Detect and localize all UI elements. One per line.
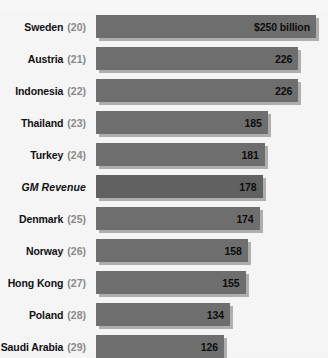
row-label: Austria(21) [0, 47, 88, 70]
chart-row: Norway(26)158 [0, 239, 328, 262]
row-label-rank: (24) [67, 149, 86, 161]
row-label: Thailand(23) [0, 111, 88, 134]
bar: 178 [96, 175, 263, 198]
row-label-rank: (22) [67, 85, 86, 97]
chart-row: Saudi Arabia(29)126 [0, 335, 328, 358]
chart-row: GM Revenue178 [0, 175, 328, 198]
row-label-rank: (29) [67, 341, 86, 353]
bar-value-label: 226 [275, 85, 292, 97]
bar: 155 [96, 271, 246, 294]
row-label-name: Thailand [21, 117, 63, 129]
row-label-rank: (23) [67, 117, 86, 129]
row-label: Turkey(24) [0, 143, 88, 166]
row-label-name: Turkey [30, 149, 63, 161]
bar: 226 [96, 47, 298, 70]
row-label: Sweden(20) [0, 15, 88, 38]
chart-row: Sweden(20)$250 billion [0, 15, 328, 38]
chart-row: Austria(21)226 [0, 47, 328, 70]
row-label: Poland(28) [0, 303, 88, 326]
row-label-name: Poland [29, 309, 63, 321]
row-label: Saudi Arabia(29) [0, 335, 88, 358]
bar: $250 billion [96, 15, 316, 38]
bar: 181 [96, 143, 265, 166]
chart-row: Denmark(25)174 [0, 207, 328, 230]
row-label-rank: (26) [67, 245, 86, 257]
bar: 185 [96, 111, 268, 134]
row-label-name: Norway [26, 245, 63, 257]
bar-value-label: 155 [222, 277, 239, 289]
row-label-name: Austria [28, 53, 63, 65]
row-label-name: Hong Kong [8, 277, 64, 289]
bar: 174 [96, 207, 260, 230]
chart-top-margin [0, 0, 328, 12]
row-label: Indonesia(22) [0, 79, 88, 102]
row-label-name: Sweden [24, 21, 63, 33]
bar-value-label: 181 [242, 149, 259, 161]
bar-value-label: $250 billion [254, 21, 310, 33]
bar-value-label: 126 [201, 341, 218, 353]
row-label: Norway(26) [0, 239, 88, 262]
row-label-name: GM Revenue [21, 181, 86, 193]
bar: 158 [96, 239, 248, 262]
bar-value-label: 174 [236, 213, 253, 225]
bar: 134 [96, 303, 230, 326]
bar-value-label: 185 [245, 117, 262, 129]
chart-row: Turkey(24)181 [0, 143, 328, 166]
bar-value-label: 178 [239, 181, 256, 193]
chart-row: Thailand(23)185 [0, 111, 328, 134]
bar-value-label: 226 [275, 53, 292, 65]
row-label-rank: (28) [67, 309, 86, 321]
row-label: Denmark(25) [0, 207, 88, 230]
row-label-rank: (25) [67, 213, 86, 225]
bar: 126 [96, 335, 224, 358]
row-label-name: Denmark [19, 213, 63, 225]
row-label: Hong Kong(27) [0, 271, 88, 294]
chart-row: Hong Kong(27)155 [0, 271, 328, 294]
row-label-rank: (27) [67, 277, 86, 289]
bar-value-label: 134 [207, 309, 224, 321]
chart-row: Poland(28)134 [0, 303, 328, 326]
row-label-rank: (21) [67, 53, 86, 65]
bar: 226 [96, 79, 298, 102]
row-label-rank: (20) [67, 21, 86, 33]
row-label-name: Saudi Arabia [1, 341, 64, 353]
bar-value-label: 158 [225, 245, 242, 257]
row-label: GM Revenue [0, 175, 88, 198]
chart-row: Indonesia(22)226 [0, 79, 328, 102]
row-label-name: Indonesia [15, 85, 63, 97]
